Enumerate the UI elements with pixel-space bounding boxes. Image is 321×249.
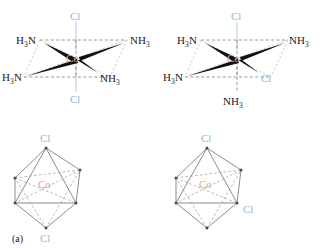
svg-text:H: H	[163, 71, 171, 83]
oct-edge-bottom-frontleft-a	[15, 203, 46, 228]
oct-vertex-top-a	[45, 147, 48, 150]
oct-edge-bottom-frontright-a	[46, 203, 76, 228]
bond-wedge-lower-right-cl-b	[238, 60, 259, 73]
oct-edge-top-frontright-a	[46, 148, 76, 203]
oct-edge-right-vert-b	[237, 170, 241, 203]
oct-edge-top-right-b	[207, 148, 241, 170]
oct-edge-bottom-frontleft-b	[176, 203, 207, 228]
svg-text:3: 3	[146, 40, 150, 49]
oct-vertex-bottom-a	[45, 227, 48, 230]
oct-edge-top-left-b	[176, 148, 207, 178]
ligand-cl-bottom-a: Cl	[70, 93, 80, 105]
bond-wedge-upper-right-b	[240, 43, 285, 61]
ligand-nh3-bottom-b: NH 3	[223, 95, 243, 110]
center-atom-label-a: Co	[66, 52, 79, 64]
oct-edge-top-right-a	[46, 148, 80, 170]
oct-vertex-top-b	[206, 147, 209, 150]
svg-text:NH: NH	[130, 34, 146, 46]
ligand-cl-top-b: Cl	[231, 10, 241, 22]
svg-text:H: H	[2, 71, 10, 83]
svg-text:NH: NH	[223, 95, 239, 107]
oct-hidden-back-horiz-a	[15, 170, 80, 178]
octahedron-diagram-a: Cl Cl Co	[0, 125, 160, 249]
oct-label-cl-bottom-a: Cl	[40, 232, 50, 244]
ligand-h3n-upper-left-a: H 3 N	[16, 34, 36, 49]
oct-vertex-front-left-b	[175, 202, 178, 205]
oct-label-cl-top-a: Cl	[40, 132, 50, 144]
isomer-figure: Co Cl Cl H 3 N NH 3 H 3 N	[0, 0, 321, 249]
caption-a: (a)	[12, 233, 23, 244]
oct-edge-right-vert-a	[76, 170, 80, 203]
ligand-cl-top-a: Cl	[70, 10, 80, 22]
structure-diagram-a: Co Cl Cl H 3 N NH 3 H 3 N	[0, 0, 160, 125]
panel-a: Co Cl Cl H 3 N NH 3 H 3 N	[0, 0, 160, 249]
oct-edge-bottom-frontright-b	[207, 203, 237, 228]
oct-label-cl-top-b: Cl	[201, 132, 211, 144]
svg-text:NH: NH	[100, 72, 116, 84]
center-atom-label-b: Co	[227, 52, 240, 64]
oct-label-co-b: Co	[199, 178, 212, 190]
oct-vertex-back-right-b	[240, 169, 243, 172]
oct-edge-top-left-a	[15, 148, 46, 178]
oct-label-cl-front-right-b: Cl	[243, 203, 253, 215]
structure-diagram-b: Co Cl NH 3 H 3 N NH 3 H 3	[161, 0, 321, 125]
oct-edge-top-frontright-b	[207, 148, 237, 203]
ligand-h3n-lower-left-b: H 3 N	[163, 71, 183, 86]
ligand-cl-lower-right-b: Cl	[261, 72, 271, 84]
svg-text:N: N	[175, 71, 183, 83]
oct-vertex-front-left-a	[14, 202, 17, 205]
ligand-nh3-upper-right-b: NH 3	[289, 34, 309, 49]
ligand-nh3-lower-right-a: NH 3	[100, 72, 120, 87]
oct-vertex-bottom-b	[206, 227, 209, 230]
svg-text:3: 3	[305, 40, 309, 49]
oct-hidden-back-horiz-b	[176, 170, 241, 178]
oct-label-co-a: Co	[38, 178, 51, 190]
bond-wedge-lower-right-a	[77, 60, 98, 73]
oct-vertex-front-right-b	[236, 202, 239, 205]
octahedron-diagram-b: Cl Cl Co	[161, 125, 321, 249]
svg-text:H: H	[177, 34, 185, 46]
svg-text:N: N	[14, 71, 22, 83]
svg-text:N: N	[28, 34, 36, 46]
panel-b: Co Cl NH 3 H 3 N NH 3 H 3	[161, 0, 321, 249]
ligand-h3n-lower-left-a: H 3 N	[2, 71, 22, 86]
svg-text:H: H	[16, 34, 24, 46]
oct-vertex-back-right-a	[79, 169, 82, 172]
svg-text:3: 3	[239, 101, 243, 110]
ligand-h3n-upper-left-b: H 3 N	[177, 34, 197, 49]
svg-text:3: 3	[116, 78, 120, 87]
oct-vertex-front-right-a	[75, 202, 78, 205]
svg-text:N: N	[189, 34, 197, 46]
oct-vertex-back-left-a	[14, 177, 17, 180]
oct-vertex-back-left-b	[175, 177, 178, 180]
svg-text:NH: NH	[289, 34, 305, 46]
bond-wedge-upper-right-a	[79, 43, 124, 61]
ligand-nh3-upper-right-a: NH 3	[130, 34, 150, 49]
